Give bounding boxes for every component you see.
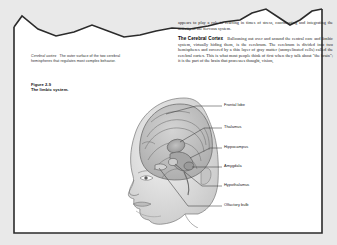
figure-title: The limbic system. xyxy=(31,87,127,92)
brain-head-drawing xyxy=(118,92,298,228)
textbook-page-scan: Cerebral cortex The outer surface of the… xyxy=(0,0,337,245)
amygdala-shape xyxy=(184,162,194,170)
paragraph-continuation-text: appears to play a role in reacting in ti… xyxy=(178,20,333,31)
label-frontal-lobe: Frontal lobe xyxy=(224,102,245,107)
hypothalamus-shape xyxy=(169,158,178,165)
glossary-entry: Cerebral cortex The outer surface of the… xyxy=(31,54,127,64)
label-hippocampus: Hippocampus xyxy=(224,144,248,149)
glossary-term: Cerebral cortex xyxy=(31,54,56,58)
limbic-system-illustration: Frontal lobe Thalamus Hippocampus Amygda… xyxy=(118,92,298,228)
label-olfactory-bulb: Olfactory bulb xyxy=(224,202,249,207)
figure-caption: Figure 2-9 The limbic system. xyxy=(31,82,127,93)
label-hypothalamus: Hypothalamus xyxy=(224,182,249,187)
section-cerebral-cortex: The Cerebral Cortex Ballooning out over … xyxy=(178,36,333,64)
label-amygdala: Amygdala xyxy=(224,163,242,168)
paragraph-continuation: appears to play a role in reacting in ti… xyxy=(178,20,333,31)
pupil xyxy=(144,176,147,179)
label-thalamus: Thalamus xyxy=(224,124,241,129)
olfactory-bulb-shape xyxy=(155,164,167,170)
section-heading: The Cerebral Cortex xyxy=(178,36,223,41)
page-content: Cerebral cortex The outer surface of the… xyxy=(0,0,337,245)
